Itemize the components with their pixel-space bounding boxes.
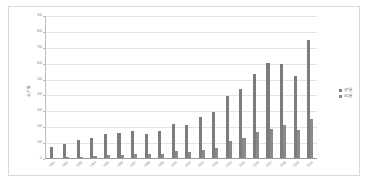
x-axis-tick-label: 2007 [266, 161, 274, 168]
x-axis-label-cell: 2002 [196, 160, 210, 180]
x-axis-line [45, 158, 317, 159]
y-axis-tick-label: 800 [37, 30, 42, 33]
x-axis-tick-label: 2004 [225, 161, 233, 168]
x-axis-tick-label: 2010 [307, 161, 315, 168]
x-axis-label-cell: 1998 [141, 160, 155, 180]
bar-group [222, 16, 236, 158]
x-axis-label-cell: 1991 [46, 160, 60, 180]
y-axis-tick-label: 400 [37, 94, 42, 97]
bar-group [303, 16, 317, 158]
bar-group [168, 16, 182, 158]
bar-2003-series2 [215, 148, 218, 158]
x-axis-label-cell: 1999 [155, 160, 169, 180]
bar-1991-series1 [50, 147, 53, 158]
x-axis-tick-label: 2005 [239, 161, 247, 168]
x-axis-label-cell: 1997 [128, 160, 142, 180]
plot-inner: 0100200300400500600700800900 [45, 16, 317, 159]
bar-group [209, 16, 223, 158]
x-axis-tick-label: 1993 [76, 161, 84, 168]
x-axis-label-cell: 2003 [209, 160, 223, 180]
bar-group [46, 16, 60, 158]
y-axis-tick-label: 100 [37, 142, 42, 145]
y-axis-tick-label: 300 [37, 110, 42, 113]
bar-group [249, 16, 263, 158]
bar-1993-series1 [77, 140, 80, 158]
bar-group [236, 16, 250, 158]
bar-2002-series2 [202, 150, 205, 158]
x-axis-label-cell: 2006 [250, 160, 264, 180]
y-axis-title: 总产量 [27, 85, 31, 98]
legend-swatch-icon [339, 89, 342, 92]
bar-2005-series2 [242, 138, 245, 158]
bar-1992-series1 [63, 144, 66, 159]
legend-swatch-icon [339, 95, 342, 98]
x-axis-tick-label: 1991 [49, 161, 57, 168]
bar-group [181, 16, 195, 158]
legend-item-2[interactable]: 出口量 [339, 95, 352, 98]
x-axis-tick-label: 1992 [62, 161, 70, 168]
x-axis-tick-label: 2009 [293, 161, 301, 168]
bar-group [114, 16, 128, 158]
legend-item-label: 总产量 [344, 89, 353, 92]
x-axis-label-cell: 2008 [277, 160, 291, 180]
x-axis-tick-label: 2008 [280, 161, 288, 168]
x-axis-tick-label: 2001 [184, 161, 192, 168]
bar-group [263, 16, 277, 158]
chart-container: 总产量 0100200300400500600700800900 1991199… [8, 6, 360, 176]
x-axis-label-cell: 1992 [60, 160, 74, 180]
plot-area: 0100200300400500600700800900 [45, 16, 317, 159]
x-axis-tick-label: 2000 [171, 161, 179, 168]
y-axis-tick-label: 200 [37, 126, 42, 129]
legend-item-1[interactable]: 总产量 [339, 89, 352, 92]
x-axis-tick-label: 1999 [157, 161, 165, 168]
bar-2008-series2 [283, 125, 286, 158]
x-axis-tick-label: 1997 [130, 161, 138, 168]
x-axis-label-cell: 1993 [73, 160, 87, 180]
bar-group [276, 16, 290, 158]
x-axis-tick-label: 1995 [103, 161, 111, 168]
x-axis-tick-label: 1994 [89, 161, 97, 168]
bar-group [73, 16, 87, 158]
y-axis-tick-label: 500 [37, 78, 42, 81]
bar-group [195, 16, 209, 158]
x-axis-labels: 1991199219931994199519961997199819992000… [46, 160, 318, 180]
chart-legend: 总产量出口量 [339, 89, 352, 98]
x-axis-tick-label: 1998 [144, 161, 152, 168]
x-axis-label-cell: 2000 [168, 160, 182, 180]
y-axis-tick-label: 700 [37, 46, 42, 49]
x-axis-tick-label: 2003 [212, 161, 220, 168]
bars-layer [46, 16, 317, 158]
bar-2009-series2 [297, 130, 300, 158]
y-axis-tick-label: 900 [37, 14, 42, 17]
y-axis-tick-label: 0 [40, 157, 42, 160]
x-axis-label-cell: 1995 [100, 160, 114, 180]
x-axis-label-cell: 2007 [264, 160, 278, 180]
bar-group [100, 16, 114, 158]
y-axis-tick-label: 600 [37, 62, 42, 65]
x-axis-tick-label: 2002 [198, 161, 206, 168]
bar-1994-series1 [90, 138, 93, 159]
bar-2000-series2 [175, 151, 178, 158]
bar-group [87, 16, 101, 158]
x-axis-tick-label: 1996 [117, 161, 125, 168]
bar-group [154, 16, 168, 158]
bar-group [60, 16, 74, 158]
bar-2010-series2 [310, 119, 313, 158]
legend-item-label: 出口量 [344, 95, 353, 98]
y-axis-tick-mark [43, 159, 45, 160]
x-axis-label-cell: 1994 [87, 160, 101, 180]
bar-group [127, 16, 141, 158]
x-axis-label-cell: 2010 [304, 160, 318, 180]
bar-2004-series2 [229, 141, 232, 158]
x-axis-label-cell: 1996 [114, 160, 128, 180]
x-axis-label-cell: 2001 [182, 160, 196, 180]
bar-2006-series2 [256, 132, 259, 159]
x-axis-label-cell: 2009 [291, 160, 305, 180]
x-axis-label-cell: 2005 [236, 160, 250, 180]
x-axis-label-cell: 2004 [223, 160, 237, 180]
bar-group [290, 16, 304, 158]
x-axis-tick-label: 2006 [252, 161, 260, 168]
bar-group [141, 16, 155, 158]
bar-2007-series2 [270, 129, 273, 158]
